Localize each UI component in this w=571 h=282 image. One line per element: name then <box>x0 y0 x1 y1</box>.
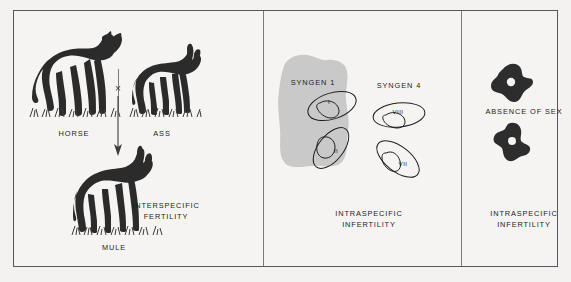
horse-silhouette <box>32 31 124 116</box>
cross-symbol: × <box>115 83 121 94</box>
panel-syngen: SYNGEN 1 I II SYNGEN 4 <box>276 11 462 266</box>
parent-right-label: ASS <box>153 129 171 138</box>
paramecium-cell-vii-numeral: VII <box>399 160 408 167</box>
paramecium-cell-ii: II <box>304 127 358 169</box>
panel-divider-1 <box>263 11 264 266</box>
amoeba-silhouette-2 <box>492 121 534 163</box>
grass-tuft-horse <box>28 105 124 118</box>
paramecium-cell-i: I <box>306 89 360 125</box>
figure-frame: HORSE × <box>13 10 558 267</box>
offspring-label: MULE <box>102 243 126 252</box>
syngen-1-label: SYNGEN 1 <box>291 78 336 87</box>
syngen-outcome-caption: INTRASPECIFIC INFERTILITY <box>335 209 402 230</box>
paramecium-cell-i-numeral: I <box>328 98 330 105</box>
cross-outcome-caption: INTERSPECIFIC FERTILITY <box>132 201 199 222</box>
grass-tuft-mule <box>70 223 166 236</box>
absence-of-sex-label: ABSENCE OF SEX <box>485 107 562 116</box>
paramecium-cell-viii: VIII <box>371 99 427 133</box>
syngen-4-label: SYNGEN 4 <box>377 81 422 90</box>
paramecium-cell-vii: VII <box>370 137 426 181</box>
paramecium-cell-viii-numeral: VIII <box>393 108 404 115</box>
paramecium-cell-ii-numeral: II <box>334 147 338 154</box>
amoeba-silhouette-1 <box>490 61 534 103</box>
asexual-outcome-caption: INTRASPECIFIC INFERTILITY <box>490 209 557 230</box>
panel-interspecific-cross: HORSE × <box>14 11 276 266</box>
figure-canvas: HORSE × <box>0 0 571 282</box>
panel-asexual: ABSENCE OF SEX INTRASPECIFIC INFERTILITY <box>462 11 559 266</box>
parent-left-label: HORSE <box>59 129 90 138</box>
grass-tuft-ass <box>128 105 204 118</box>
